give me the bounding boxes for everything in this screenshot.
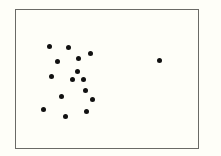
- data-point: [83, 88, 88, 93]
- data-point: [49, 74, 54, 79]
- data-point: [84, 109, 89, 114]
- data-point: [66, 45, 71, 50]
- data-point: [41, 107, 46, 112]
- data-point: [157, 58, 162, 63]
- data-point: [88, 51, 93, 56]
- data-point: [76, 56, 81, 61]
- data-point: [47, 44, 52, 49]
- data-point: [75, 69, 80, 74]
- data-point: [70, 77, 75, 82]
- data-point: [55, 59, 60, 64]
- data-point: [59, 94, 64, 99]
- data-point: [81, 77, 86, 82]
- data-point: [90, 97, 95, 102]
- data-point: [63, 114, 68, 119]
- plot-frame: [15, 9, 199, 149]
